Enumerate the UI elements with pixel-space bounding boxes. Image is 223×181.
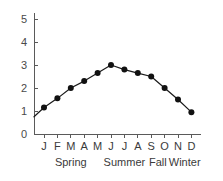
data-point-march [68,85,74,91]
y-tick-label-0: 0 [21,128,27,140]
x-label-june: J [108,140,114,152]
y-axis-tick-labels: 012345 [21,13,27,140]
x-axis-ticks [44,134,191,138]
y-axis-ticks [34,19,38,111]
y-tick-label-3: 3 [21,59,27,71]
x-label-july: J [122,140,128,152]
season-label-fall: Fall [149,156,167,168]
chart-canvas: 012345 JFMAMJJASOND SpringSummerFallWint… [0,0,223,181]
x-label-december: D [187,140,195,152]
data-point-june [108,62,114,68]
y-axis: 012345 [21,13,38,140]
data-point-november [175,97,181,103]
data-point-august [135,70,141,76]
x-label-november: N [174,140,182,152]
x-axis: JFMAMJJASOND SpringSummerFallWinter [34,134,201,168]
season-label-summer: Summer [104,156,146,168]
series-line-path [34,65,191,117]
x-axis-month-labels: JFMAMJJASOND [41,140,195,152]
x-label-august: A [134,140,142,152]
y-tick-label-5: 5 [21,13,27,25]
x-label-february: F [54,140,61,152]
season-label-winter: Winter [169,156,201,168]
y-tick-label-1: 1 [21,105,27,117]
data-point-july [121,67,127,73]
x-label-january: J [41,140,47,152]
x-label-october: O [160,140,169,152]
x-label-may: M [93,140,102,152]
data-point-may [95,70,101,76]
season-label-spring: Spring [55,156,87,168]
x-label-march: M [66,140,75,152]
data-series [34,62,194,117]
x-label-april: A [81,140,89,152]
data-point-october [162,85,168,91]
line-chart: 012345 JFMAMJJASOND SpringSummerFallWint… [0,0,223,181]
data-point-december [188,109,194,115]
y-tick-label-2: 2 [21,82,27,94]
data-point-january [41,105,47,111]
y-tick-label-4: 4 [21,36,27,48]
x-label-september: S [148,140,155,152]
data-point-february [54,95,60,101]
data-point-september [148,74,154,80]
data-point-april [81,78,87,84]
x-axis-season-labels: SpringSummerFallWinter [55,156,201,168]
series-markers [41,62,194,115]
